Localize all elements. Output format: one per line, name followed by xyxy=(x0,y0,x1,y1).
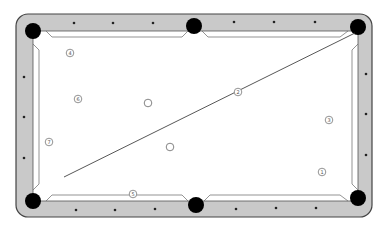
top-right-pocket xyxy=(350,19,366,35)
ball-1: 1 xyxy=(318,168,326,176)
ball-3: 3 xyxy=(325,116,333,124)
ball-number: 1 xyxy=(320,169,323,175)
ball-number: 3 xyxy=(327,117,330,123)
ball-number: 5 xyxy=(131,191,134,197)
white-ball-lower xyxy=(166,143,174,151)
ball-2: 2 xyxy=(234,88,242,96)
bottom-center-pocket xyxy=(188,197,204,213)
ball-7: 7 xyxy=(45,138,53,146)
top-left-pocket xyxy=(25,23,41,39)
bottom-right-pocket xyxy=(350,190,366,206)
ball-number: 6 xyxy=(76,96,79,102)
ball-number: 7 xyxy=(47,139,50,145)
ball-5: 5 xyxy=(129,190,137,198)
ball-number: 2 xyxy=(236,89,239,95)
white-ball-upper xyxy=(144,99,152,107)
bottom-left-pocket xyxy=(25,193,41,209)
table-felt xyxy=(33,31,358,201)
ball-4: 4 xyxy=(66,49,74,57)
ball-6: 6 xyxy=(74,95,82,103)
pool-table-diagram: 4672315 xyxy=(0,0,387,227)
top-center-pocket xyxy=(186,18,202,34)
ball-number: 4 xyxy=(68,50,71,56)
